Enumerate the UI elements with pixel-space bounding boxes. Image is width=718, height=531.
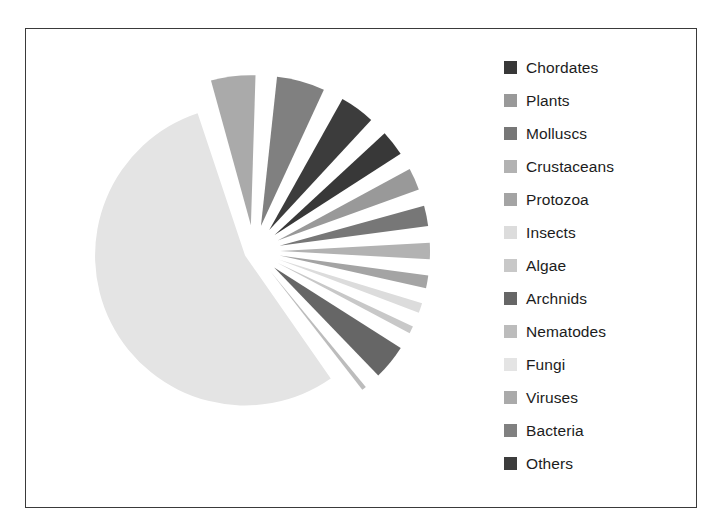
- legend-swatch-icon: [504, 424, 517, 437]
- legend-swatch-icon: [504, 457, 517, 470]
- legend-item[interactable]: Plants: [504, 84, 694, 117]
- legend-item[interactable]: Crustaceans: [504, 150, 694, 183]
- legend-label: Bacteria: [526, 423, 584, 439]
- legend-item[interactable]: Chordates: [504, 51, 694, 84]
- pie-slice[interactable]: [280, 243, 430, 260]
- legend-label: Plants: [526, 93, 570, 109]
- legend-item[interactable]: Nematodes: [504, 315, 694, 348]
- legend-swatch-icon: [504, 259, 517, 272]
- legend-label: Viruses: [526, 390, 578, 406]
- legend-swatch-icon: [504, 160, 517, 173]
- chart-frame: ChordatesPlantsMolluscsCrustaceansProtoz…: [25, 28, 697, 508]
- legend-label: Algae: [526, 258, 566, 274]
- legend-item[interactable]: Viruses: [504, 381, 694, 414]
- legend-label: Insects: [526, 225, 576, 241]
- legend-label: Fungi: [526, 357, 565, 373]
- legend-label: Molluscs: [526, 126, 587, 142]
- legend-label: Others: [526, 456, 573, 472]
- legend-swatch-icon: [504, 61, 517, 74]
- legend-item[interactable]: Insects: [504, 216, 694, 249]
- pie-chart-svg: [26, 29, 496, 507]
- legend-swatch-icon: [504, 127, 517, 140]
- legend-item[interactable]: Fungi: [504, 348, 694, 381]
- legend-swatch-icon: [504, 391, 517, 404]
- legend-swatch-icon: [504, 292, 517, 305]
- legend-swatch-icon: [504, 358, 517, 371]
- legend-label: Crustaceans: [526, 159, 614, 175]
- legend-item[interactable]: Others: [504, 447, 694, 480]
- legend-item[interactable]: Protozoa: [504, 183, 694, 216]
- legend-label: Chordates: [526, 60, 598, 76]
- legend-swatch-icon: [504, 226, 517, 239]
- legend-item[interactable]: Archnids: [504, 282, 694, 315]
- legend-label: Protozoa: [526, 192, 589, 208]
- legend-swatch-icon: [504, 193, 517, 206]
- legend-swatch-icon: [504, 94, 517, 107]
- legend-label: Nematodes: [526, 324, 606, 340]
- pie-slice[interactable]: [95, 113, 331, 405]
- legend-item[interactable]: Algae: [504, 249, 694, 282]
- legend-label: Archnids: [526, 291, 587, 307]
- legend-item[interactable]: Molluscs: [504, 117, 694, 150]
- legend-item[interactable]: Bacteria: [504, 414, 694, 447]
- legend-swatch-icon: [504, 325, 517, 338]
- pie-chart: [26, 29, 496, 507]
- chart-legend: ChordatesPlantsMolluscsCrustaceansProtoz…: [504, 51, 694, 480]
